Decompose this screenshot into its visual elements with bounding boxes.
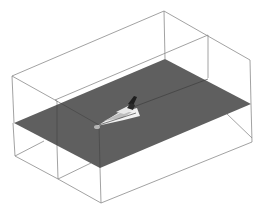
scene-canvas bbox=[0, 0, 255, 209]
3d-viewport bbox=[0, 0, 255, 209]
